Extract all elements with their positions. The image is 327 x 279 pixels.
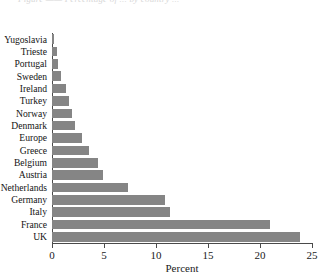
- bar: [52, 232, 300, 242]
- x-tick: [312, 243, 313, 248]
- bar-row: [52, 70, 312, 82]
- category-label: Ireland: [20, 83, 47, 95]
- x-tick: [52, 243, 53, 248]
- x-tick-label: 0: [49, 249, 55, 261]
- bar: [52, 195, 165, 205]
- bar: [52, 71, 61, 81]
- category-label: Italy: [29, 206, 47, 218]
- plot-area: 0510152025 Percent: [52, 33, 312, 243]
- bar-row: [52, 231, 312, 243]
- bar: [52, 207, 170, 217]
- x-tick-label: 5: [101, 249, 107, 261]
- x-axis-line: [52, 243, 313, 244]
- category-label: France: [21, 219, 47, 231]
- bar-row: [52, 181, 312, 193]
- x-tick: [104, 243, 105, 248]
- category-label: Sweden: [17, 71, 47, 83]
- caption-remnant-text: Figure —— Percentage of ... by country .…: [0, 0, 327, 4]
- category-label: Netherlands: [1, 182, 47, 194]
- bar-row: [52, 95, 312, 107]
- bar-row: [52, 33, 312, 45]
- bar-row: [52, 119, 312, 131]
- bar: [52, 34, 54, 44]
- bar-row: [52, 82, 312, 94]
- bar: [52, 133, 82, 143]
- x-tick: [260, 243, 261, 248]
- category-label: Denmark: [11, 120, 47, 132]
- bar-row: [52, 144, 312, 156]
- category-label: Greece: [20, 145, 47, 157]
- category-label: Norway: [16, 108, 47, 120]
- category-label: Austria: [19, 169, 47, 181]
- category-label: Europe: [19, 132, 47, 144]
- category-label: Germany: [11, 194, 47, 206]
- bar-row: [52, 107, 312, 119]
- x-tick: [208, 243, 209, 248]
- x-tick-label: 15: [203, 249, 214, 261]
- category-label: Yugoslavia: [4, 34, 47, 46]
- bar-row: [52, 206, 312, 218]
- bar: [52, 96, 69, 106]
- bar: [52, 109, 72, 119]
- bar: [52, 121, 75, 131]
- bar-row: [52, 132, 312, 144]
- bar: [52, 158, 98, 168]
- category-label-column: YugoslaviaTriestePortugalSwedenIrelandTu…: [0, 33, 50, 243]
- bar: [52, 59, 58, 69]
- bar-row: [52, 169, 312, 181]
- x-axis-label: Percent: [52, 262, 312, 274]
- category-label: Trieste: [21, 46, 47, 58]
- bar-row: [52, 45, 312, 57]
- bar: [52, 220, 270, 230]
- x-tick-label: 10: [151, 249, 162, 261]
- bar: [52, 183, 128, 193]
- bar: [52, 84, 66, 94]
- x-tick-label: 20: [255, 249, 266, 261]
- bar-row: [52, 218, 312, 230]
- x-tick-label: 25: [307, 249, 318, 261]
- category-label: Turkey: [20, 95, 47, 107]
- bar: [52, 146, 89, 156]
- bar-row: [52, 58, 312, 70]
- x-tick: [156, 243, 157, 248]
- bar: [52, 47, 57, 57]
- category-label: Belgium: [14, 157, 47, 169]
- category-label: Portugal: [14, 58, 47, 70]
- bar-chart-figure: Figure —— Percentage of ... by country .…: [0, 0, 327, 279]
- bar-row: [52, 194, 312, 206]
- category-label: UK: [33, 231, 47, 243]
- bar-row: [52, 157, 312, 169]
- bar: [52, 170, 103, 180]
